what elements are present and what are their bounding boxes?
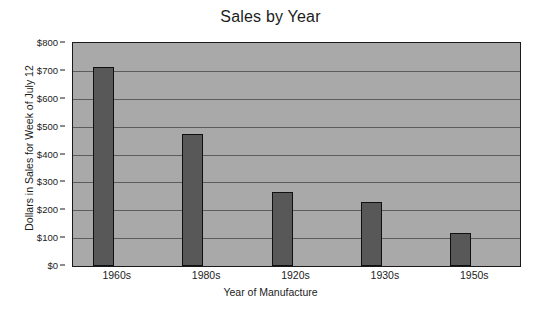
x-axis-title: Year of Manufacture [0, 286, 541, 298]
y-axis-tick-label: $800 [37, 37, 58, 48]
y-axis-tick-label: $300 [37, 176, 58, 187]
y-axis-tick-mark [60, 42, 65, 43]
x-axis-tick-label: 1980s [192, 269, 221, 281]
y-axis-tick-label: $0 [47, 260, 58, 271]
plot-area [72, 42, 521, 267]
y-axis-tick-mark [60, 209, 65, 210]
y-axis-tick-label: $100 [37, 232, 58, 243]
sales-by-year-bar-chart: Sales by Year Dollars in Sales for Week … [0, 0, 541, 311]
y-axis-tick-label: $500 [37, 120, 58, 131]
x-axis-tick-labels: 1960s1980s1920s1930s1950s [72, 269, 521, 287]
y-axis-tick-labels: $0$100$200$300$400$500$600$700$800 [0, 42, 68, 267]
bar [93, 67, 114, 266]
bar [361, 202, 382, 266]
y-axis-tick-mark [60, 69, 65, 70]
chart-title: Sales by Year [0, 8, 541, 26]
y-axis-tick-label: $400 [37, 148, 58, 159]
y-axis-tick-mark [60, 97, 65, 98]
y-axis-tick-mark [60, 237, 65, 238]
x-axis-tick-label: 1920s [281, 269, 310, 281]
x-axis-tick-label: 1930s [371, 269, 400, 281]
bar [272, 192, 293, 266]
y-axis-tick-mark [60, 181, 65, 182]
y-axis-tick-label: $200 [37, 204, 58, 215]
y-axis-tick-mark [60, 153, 65, 154]
x-axis-tick-label: 1960s [102, 269, 131, 281]
y-axis-tick-mark [60, 265, 65, 266]
bars-group [73, 43, 520, 266]
x-axis-tick-label: 1950s [460, 269, 489, 281]
bar [450, 233, 471, 266]
y-axis-tick-label: $600 [37, 92, 58, 103]
bar [182, 134, 203, 266]
y-axis-tick-mark [60, 125, 65, 126]
y-axis-tick-label: $700 [37, 64, 58, 75]
